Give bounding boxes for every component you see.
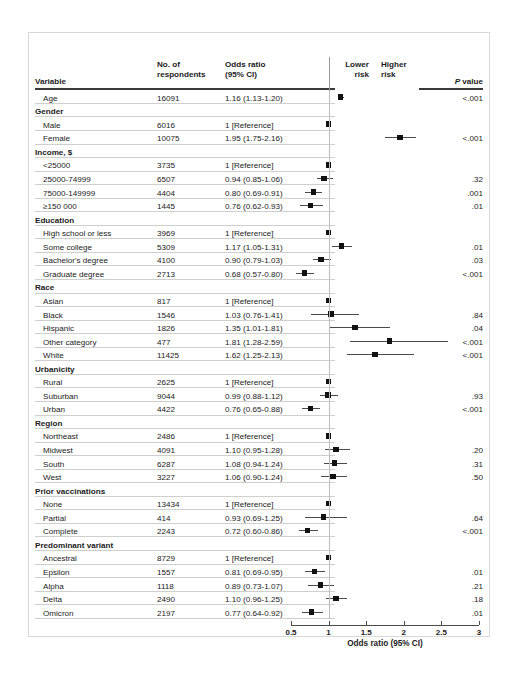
row-label: Male xyxy=(35,121,163,130)
row-respondents: 2625 xyxy=(157,378,223,387)
row-label: Age xyxy=(35,94,163,103)
row-divider xyxy=(35,442,335,443)
row-p-value: <.001 xyxy=(419,270,483,279)
x-axis-tick-label: 0.5 xyxy=(279,628,303,637)
row-divider xyxy=(35,577,335,578)
row-divider xyxy=(35,306,335,307)
row-label: High school or less xyxy=(35,229,163,238)
row-odds-ratio: 0.76 (0.62-0.93) xyxy=(225,202,335,211)
x-axis-tick xyxy=(366,621,367,625)
row-divider xyxy=(35,225,335,226)
row-respondents: 6016 xyxy=(157,121,223,130)
row-label: Graduate degree xyxy=(35,270,163,279)
row-odds-ratio: 1 [Reference] xyxy=(225,432,335,441)
row-odds-ratio: 0.89 (0.73-1.07) xyxy=(225,582,335,591)
row-divider xyxy=(35,171,335,172)
row-label: Partial xyxy=(35,514,163,523)
header-rule xyxy=(35,88,335,90)
point-estimate-marker xyxy=(372,352,378,358)
group-label: Prior vaccinations xyxy=(35,487,155,496)
confidence-interval-bar xyxy=(338,97,343,98)
column-header-respondents-line2: respondents xyxy=(157,70,223,80)
row-respondents: 6287 xyxy=(157,460,223,469)
x-axis-tick-label: 3 xyxy=(467,628,491,637)
row-respondents: 1557 xyxy=(157,568,223,577)
row-odds-ratio: 0.76 (0.65-0.88) xyxy=(225,405,335,414)
row-respondents: 13434 xyxy=(157,500,223,509)
row-p-value: .01 xyxy=(419,568,483,577)
row-p-value: .93 xyxy=(419,392,483,401)
row-respondents: 10075 xyxy=(157,134,223,143)
point-estimate-marker xyxy=(352,325,358,331)
x-axis-tick-label: 1 xyxy=(317,628,341,637)
x-axis-tick-label: 2 xyxy=(392,628,416,637)
row-respondents: 2713 xyxy=(157,270,223,279)
row-respondents: 3969 xyxy=(157,229,223,238)
column-header-odds-ratio-line1: Odds ratio xyxy=(225,60,335,70)
row-label: ≥150 000 xyxy=(35,202,163,211)
point-estimate-marker xyxy=(338,94,344,100)
row-label: West xyxy=(35,473,163,482)
row-respondents: 817 xyxy=(157,297,223,306)
row-label: 25000-74999 xyxy=(35,175,163,184)
row-respondents: 4100 xyxy=(157,256,223,265)
row-divider xyxy=(35,591,335,592)
row-divider xyxy=(35,238,335,239)
p-value-word: value xyxy=(460,77,483,86)
column-header-respondents: No. of respondents xyxy=(157,60,223,79)
axis-label-lower-risk-line2: risk xyxy=(325,70,369,80)
point-estimate-marker xyxy=(339,243,345,249)
row-p-value: <.001 xyxy=(419,94,483,103)
row-odds-ratio: 0.90 (0.79-1.03) xyxy=(225,256,335,265)
group-label: Gender xyxy=(35,107,155,116)
row-divider xyxy=(35,564,335,565)
row-label: Omicron xyxy=(35,609,163,618)
point-estimate-marker xyxy=(397,135,403,141)
row-divider xyxy=(35,523,335,524)
confidence-interval-bar xyxy=(332,246,352,247)
row-p-value: .18 xyxy=(419,595,483,604)
row-divider xyxy=(35,496,335,497)
row-label: Ancestral xyxy=(35,554,163,563)
confidence-interval-bar xyxy=(385,137,416,138)
row-label: Suburban xyxy=(35,392,163,401)
confidence-interval-bar xyxy=(347,354,413,355)
row-respondents: 2486 xyxy=(157,432,223,441)
row-odds-ratio: 0.77 (0.64-0.92) xyxy=(225,609,335,618)
row-odds-ratio: 0.80 (0.69-0.91) xyxy=(225,189,335,198)
row-divider xyxy=(35,482,335,483)
row-label: Some college xyxy=(35,243,163,252)
row-p-value: .32 xyxy=(419,175,483,184)
row-odds-ratio: 1.16 (1.13-1.20) xyxy=(225,94,335,103)
row-respondents: 4091 xyxy=(157,446,223,455)
row-label: Epsilon xyxy=(35,568,163,577)
row-respondents: 1445 xyxy=(157,202,223,211)
row-divider xyxy=(35,536,335,537)
row-label: Rural xyxy=(35,378,163,387)
row-label: Hispanic xyxy=(35,324,163,333)
row-divider xyxy=(35,415,335,416)
row-label: Alpha xyxy=(35,582,163,591)
row-respondents: 2490 xyxy=(157,595,223,604)
row-divider xyxy=(35,130,335,131)
row-label: None xyxy=(35,500,163,509)
row-p-value: <.001 xyxy=(419,351,483,360)
confidence-interval-bar xyxy=(329,327,389,328)
row-divider xyxy=(35,293,335,294)
row-p-value: <.001 xyxy=(419,527,483,536)
row-divider xyxy=(35,103,335,104)
x-axis-line xyxy=(291,625,479,626)
column-header-respondents-line1: No. of xyxy=(157,60,223,70)
row-respondents: 8729 xyxy=(157,554,223,563)
row-label: Urban xyxy=(35,405,163,414)
column-header-p-value: P value xyxy=(419,77,483,86)
row-p-value: .84 xyxy=(419,311,483,320)
row-odds-ratio: 1 [Reference] xyxy=(225,121,335,130)
row-odds-ratio: 1.81 (1.28-2.59) xyxy=(225,338,335,347)
row-odds-ratio: 1 [Reference] xyxy=(225,161,335,170)
row-respondents: 16091 xyxy=(157,94,223,103)
row-label: <25000 xyxy=(35,161,163,170)
row-divider xyxy=(35,252,335,253)
column-header-variable: Variable xyxy=(35,77,155,86)
row-odds-ratio: 1.10 (0.95-1.28) xyxy=(225,446,335,455)
